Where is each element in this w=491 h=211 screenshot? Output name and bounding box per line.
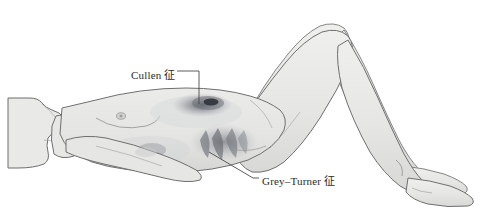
cullen-sign-label: Cullen 征 xyxy=(131,66,176,82)
cullen-sign-bruise xyxy=(172,93,232,117)
umbilicus xyxy=(204,99,219,106)
patient-body-illustration xyxy=(0,0,491,211)
medical-illustration-figure: Cullen 征 Grey–Turner 征 xyxy=(0,0,491,211)
grey-turner-sign-label: Grey–Turner 征 xyxy=(262,172,335,188)
